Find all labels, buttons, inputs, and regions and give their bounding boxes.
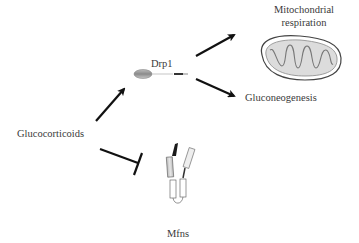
inhibition-glucocorticoids-to-mfns bbox=[100, 149, 142, 175]
mito-respiration-label-line1: Mitochondrial bbox=[269, 4, 339, 16]
arrow-drp1-to-gluconeogenesis bbox=[196, 79, 234, 96]
diagram-graphics bbox=[0, 0, 359, 243]
drp1-protein-icon bbox=[134, 70, 188, 79]
mitochondrion-icon bbox=[261, 36, 341, 80]
mito-respiration-label-line2: respiration bbox=[269, 17, 339, 29]
diagram-canvas: Glucocorticoids Drp1 Mitochondrial respi… bbox=[0, 0, 359, 243]
mitofusin-dimer-icon bbox=[166, 143, 195, 203]
mfns-label: Mfns bbox=[167, 228, 189, 240]
gluconeogenesis-label: Gluconeogenesis bbox=[245, 92, 317, 104]
drp1-label: Drp1 bbox=[151, 58, 173, 70]
arrow-drp1-to-respiration bbox=[196, 35, 234, 56]
arrow-glucocorticoids-to-drp1 bbox=[96, 89, 124, 121]
glucocorticoids-label: Glucocorticoids bbox=[17, 128, 84, 140]
